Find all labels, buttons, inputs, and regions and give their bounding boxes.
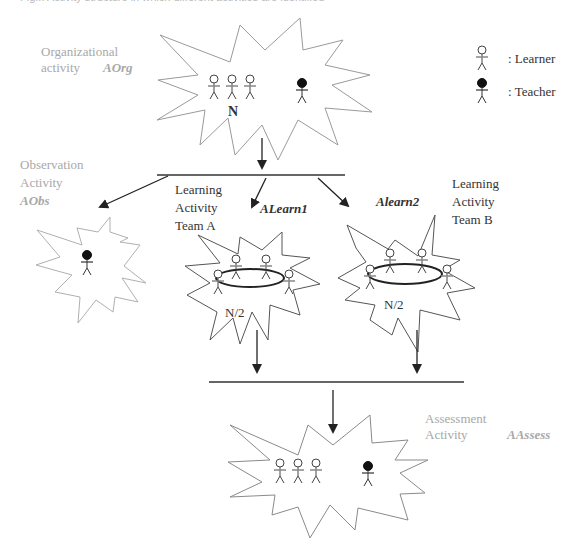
organizational-activity-burst	[157, 18, 372, 160]
obs-activity-code: AObs	[20, 192, 50, 209]
assess-activity-code: AAssess	[507, 426, 550, 443]
learn-a-label-line1: Learning	[175, 181, 222, 198]
learn-a-code: ALearn1	[260, 200, 308, 217]
learn-a-count: N/2	[225, 304, 245, 321]
learning-team-a-burst	[185, 232, 320, 344]
org-activity-code: AOrg	[103, 59, 133, 76]
assessment-activity-burst	[228, 415, 428, 538]
learn-b-code: Alearn2	[376, 193, 419, 210]
obs-activity-label-line1: Observation	[20, 156, 84, 173]
legend-learner-icon	[476, 46, 488, 70]
obs-activity-label-line2: Activity	[20, 174, 63, 191]
assess-activity-label-line2: Activity	[425, 426, 468, 443]
org-activity-label-line1: Organizational	[41, 43, 118, 60]
activity-diagram	[0, 0, 587, 555]
learn-b-label-line2: Activity	[452, 193, 495, 210]
learn-b-count: N/2	[384, 296, 404, 313]
org-activity-label-line2: activity	[41, 59, 80, 76]
assess-activity-label-line1: Assessment	[425, 410, 486, 427]
legend-teacher-label: : Teacher	[508, 83, 556, 100]
learn-a-label-line3: Team A	[175, 217, 216, 234]
learn-a-label-line2: Activity	[175, 199, 218, 216]
org-count-label: N	[228, 103, 238, 120]
legend-teacher-icon	[476, 79, 488, 104]
learning-team-b-burst	[338, 215, 475, 352]
learn-b-label-line1: Learning	[452, 175, 499, 192]
learn-b-label-line3: Team B	[452, 211, 493, 228]
observation-activity-burst	[36, 217, 146, 323]
legend-learner-label: : Learner	[508, 50, 555, 67]
